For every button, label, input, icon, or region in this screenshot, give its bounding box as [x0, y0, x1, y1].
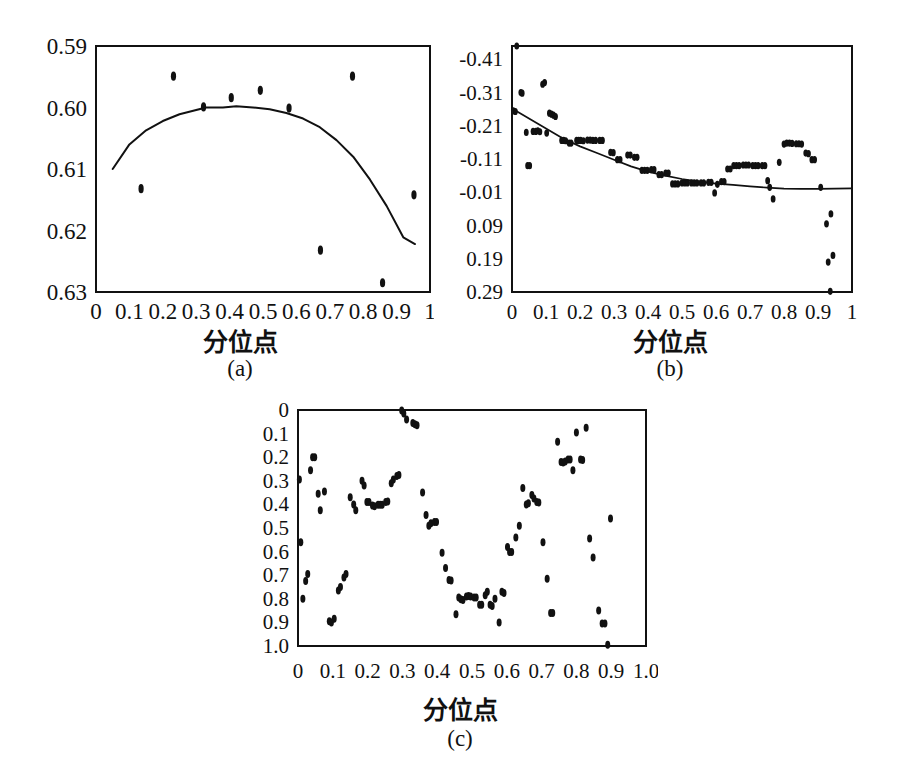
y-tick-label: -0.11 — [460, 147, 503, 171]
data-point — [628, 151, 633, 158]
data-point — [415, 421, 420, 429]
y-tick-label: 0.2 — [263, 445, 289, 469]
data-point — [362, 482, 367, 490]
data-point — [602, 620, 607, 628]
data-point — [600, 137, 605, 144]
y-tick-label: 1.0 — [263, 634, 289, 658]
data-point — [411, 190, 416, 199]
data-point — [297, 476, 302, 484]
y-tick-label: 0.19 — [466, 247, 503, 271]
x-tick-label: 0.2 — [567, 300, 593, 324]
y-tick-label: 0.9 — [263, 610, 289, 634]
data-point — [404, 415, 409, 423]
data-point — [611, 149, 616, 156]
x-tick-label: 0.8 — [563, 659, 589, 683]
data-point — [746, 161, 751, 168]
x-tick-label: 0.3 — [389, 659, 415, 683]
x-tick-label: 0.6 — [282, 299, 311, 324]
y-tick-label: -0.41 — [459, 47, 503, 71]
x-tick-label: 0 — [293, 659, 304, 683]
data-point — [344, 570, 349, 578]
data-point — [540, 538, 545, 546]
panel-c-plot: 1.00.90.80.70.60.50.40.30.20.1000.10.20.… — [228, 398, 658, 688]
data-point — [520, 484, 525, 492]
data-point — [635, 154, 640, 161]
data-point — [568, 456, 573, 464]
data-point — [608, 515, 613, 523]
x-tick-label: 0.5 — [669, 300, 695, 324]
data-point — [527, 162, 532, 169]
x-tick-label: 1 — [424, 299, 434, 324]
data-point — [424, 511, 429, 519]
data-point — [536, 499, 541, 507]
data-point — [581, 137, 586, 144]
y-tick-label: 0.09 — [466, 214, 503, 238]
data-point — [513, 533, 518, 541]
data-point — [509, 548, 514, 556]
data-point — [555, 438, 560, 446]
data-point — [765, 177, 770, 184]
data-point — [545, 575, 550, 583]
panel-b-plot: 0.290.190.09-0.01-0.11-0.21-0.31-0.4100.… — [446, 34, 866, 324]
fitted-curve — [113, 106, 415, 244]
panel-c-xaxis-label: 分位点 — [330, 690, 590, 726]
data-point — [812, 156, 817, 163]
data-point — [385, 498, 390, 506]
x-tick-label: 0.5 — [249, 299, 278, 324]
data-point — [229, 93, 234, 102]
x-tick-label: 0.4 — [215, 299, 244, 324]
panel-a-xaxis-label: 分位点 — [110, 322, 370, 358]
x-tick-label: 1 — [847, 300, 858, 324]
x-tick-label: 0.1 — [533, 300, 559, 324]
data-point — [298, 538, 303, 546]
data-point — [312, 453, 317, 461]
y-tick-label: 0.4 — [263, 492, 290, 516]
data-point — [449, 576, 454, 584]
plot-frame — [512, 46, 852, 292]
data-point — [526, 499, 531, 507]
data-point — [353, 506, 358, 514]
data-point — [676, 180, 681, 187]
data-point — [550, 609, 555, 617]
data-point — [171, 72, 176, 81]
data-point — [799, 140, 804, 147]
data-point — [453, 610, 458, 618]
y-tick-label: 0.63 — [47, 280, 87, 305]
data-point — [332, 615, 337, 623]
x-tick-label: 0.5 — [459, 659, 485, 683]
data-point — [305, 570, 310, 578]
y-tick-label: 0.8 — [263, 587, 289, 611]
data-point — [138, 184, 143, 193]
y-tick-label: 0 — [279, 398, 290, 422]
data-point — [517, 522, 522, 530]
data-point — [574, 428, 579, 436]
x-tick-label: 0.9 — [805, 300, 831, 324]
data-point — [479, 601, 484, 609]
x-tick-label: 0.9 — [598, 659, 624, 683]
data-point — [308, 466, 313, 474]
x-tick-label: 0.8 — [349, 299, 378, 324]
y-tick-label: -0.21 — [459, 114, 503, 138]
fitted-curve — [512, 109, 852, 189]
x-tick-label: 0.4 — [635, 300, 662, 324]
data-point — [318, 506, 323, 514]
scatter-series — [511, 42, 835, 295]
data-point — [497, 618, 502, 626]
data-point — [440, 549, 445, 557]
y-tick-label: 0.3 — [263, 469, 289, 493]
data-point — [318, 246, 323, 255]
data-point — [580, 456, 585, 464]
y-tick-label: 0.7 — [263, 563, 289, 587]
data-point — [443, 564, 448, 572]
data-point — [286, 104, 291, 113]
x-tick-label: 0.8 — [771, 300, 797, 324]
y-tick-label: 0.59 — [47, 34, 87, 59]
x-tick-label: 0.7 — [315, 299, 344, 324]
y-tick-label: -0.31 — [459, 81, 503, 105]
data-point — [490, 602, 495, 610]
x-tick-label: 0.7 — [528, 659, 554, 683]
data-point — [831, 252, 836, 259]
data-point — [553, 113, 558, 120]
data-point — [348, 493, 353, 501]
data-point — [434, 518, 439, 526]
